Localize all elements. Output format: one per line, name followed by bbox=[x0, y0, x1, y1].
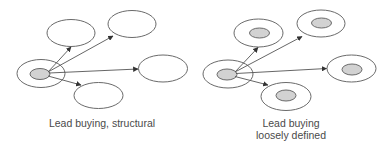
panel-structural bbox=[17, 11, 188, 109]
target-node-right bbox=[327, 55, 376, 82]
target-node-top-left bbox=[234, 19, 283, 47]
target-node-inner bbox=[342, 64, 362, 75]
target-node-bottom bbox=[74, 83, 123, 109]
source-node-inner bbox=[30, 69, 50, 80]
target-node-right bbox=[139, 55, 188, 82]
target-node-bottom bbox=[261, 83, 311, 111]
target-node-top-right bbox=[297, 10, 345, 37]
target-node-inner bbox=[276, 90, 296, 101]
target-node-top-right bbox=[108, 11, 156, 38]
target-node-inner bbox=[250, 28, 270, 38]
caption-structural: Lead buying, structural bbox=[42, 117, 162, 129]
caption-loosely-defined: Lead buying loosely defined bbox=[231, 117, 351, 141]
panel-loosely-defined bbox=[203, 10, 376, 111]
caption-line: Lead buying, structural bbox=[42, 117, 162, 129]
target-node-top-left bbox=[47, 20, 95, 47]
caption-line: loosely defined bbox=[231, 129, 351, 141]
source-node-inner bbox=[217, 69, 237, 80]
target-node-inner bbox=[312, 18, 332, 28]
caption-line: Lead buying bbox=[231, 117, 351, 129]
